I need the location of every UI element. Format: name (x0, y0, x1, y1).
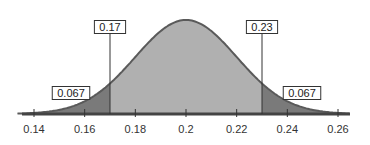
x-tick-label: 0.24 (277, 123, 298, 135)
middle-region (110, 20, 262, 114)
svg-text:0.23: 0.23 (251, 21, 272, 33)
x-tick-label: 0.18 (125, 123, 146, 135)
x-tick-label: 0.26 (327, 123, 348, 135)
cutoff-label: 0.23 (246, 21, 277, 34)
x-tick-label: 0.22 (226, 123, 247, 135)
svg-text:0.17: 0.17 (99, 21, 120, 33)
svg-text:0.067: 0.067 (288, 87, 316, 99)
normal-distribution-chart: 0.140.160.180.20.220.240.26 0.170.23 0.0… (0, 0, 370, 145)
left-tail-area-label: 0.067 (52, 87, 90, 100)
x-tick-label: 0.2 (178, 123, 193, 135)
svg-text:0.067: 0.067 (57, 87, 85, 99)
x-tick-label: 0.14 (23, 123, 44, 135)
right-tail-area-label: 0.067 (283, 87, 321, 100)
cutoff-label: 0.17 (94, 21, 125, 34)
x-tick-label: 0.16 (74, 123, 95, 135)
